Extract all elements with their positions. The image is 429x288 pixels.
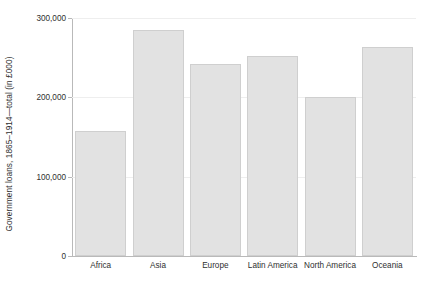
bar-africa[interactable] bbox=[75, 131, 126, 256]
gridline bbox=[72, 18, 416, 19]
bar-oceania[interactable] bbox=[362, 47, 413, 256]
bar-latin-america[interactable] bbox=[247, 56, 298, 256]
bar-chart: Government loans, 1865–1914—total (in £0… bbox=[0, 0, 429, 288]
x-axis-line bbox=[72, 256, 417, 257]
x-tick-label-oceania: Oceania bbox=[372, 261, 403, 270]
x-tick-label-latin-america: Latin America bbox=[248, 261, 298, 270]
y-tick-label: 0 bbox=[0, 252, 66, 261]
x-tick-label-north-america: North America bbox=[304, 261, 356, 270]
bar-asia[interactable] bbox=[133, 30, 184, 256]
y-tick-label: 100,000 bbox=[0, 172, 66, 181]
x-tick-label-europe: Europe bbox=[202, 261, 228, 270]
y-tick-label: 200,000 bbox=[0, 93, 66, 102]
plot-area bbox=[72, 18, 416, 256]
bar-europe[interactable] bbox=[190, 64, 241, 256]
x-tick-label-africa: Africa bbox=[90, 261, 111, 270]
y-tick-label: 300,000 bbox=[0, 14, 66, 23]
bar-north-america[interactable] bbox=[305, 97, 356, 256]
y-axis-title: Government loans, 1865–1914—total (in £0… bbox=[0, 0, 18, 288]
x-tick-label-asia: Asia bbox=[150, 261, 166, 270]
